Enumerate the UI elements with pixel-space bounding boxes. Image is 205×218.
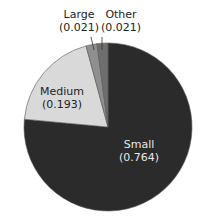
label-small-name: Small (114, 138, 164, 151)
label-other: Other (0.021) (98, 8, 144, 34)
label-other-name: Other (98, 8, 144, 21)
label-large: Large (0.021) (56, 8, 102, 34)
label-large-name: Large (56, 8, 102, 21)
label-medium: Medium (0.193) (37, 85, 87, 111)
label-small-value: (0.764) (114, 151, 164, 164)
label-large-value: (0.021) (56, 21, 102, 34)
label-other-value: (0.021) (98, 21, 144, 34)
label-medium-value: (0.193) (37, 98, 87, 111)
label-small: Small (0.764) (114, 138, 164, 164)
label-medium-name: Medium (37, 85, 87, 98)
